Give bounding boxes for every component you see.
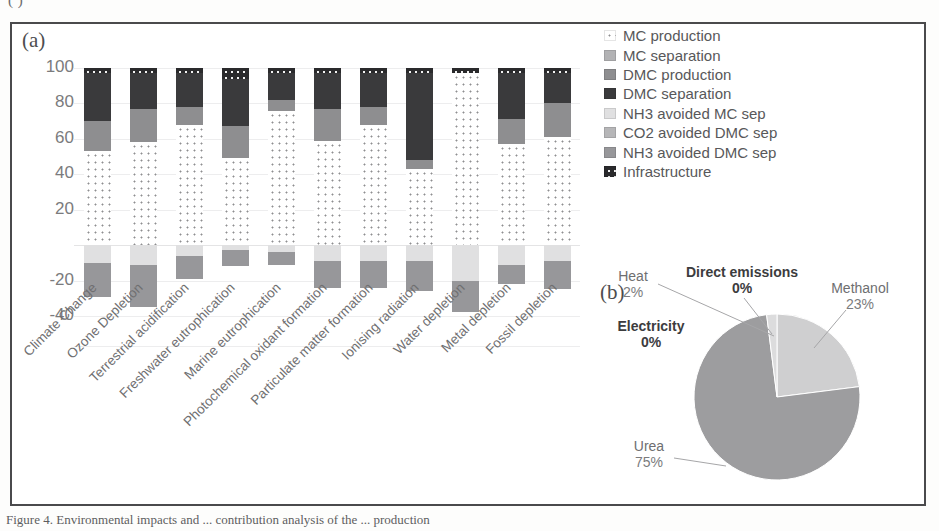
bar-segment [406,160,433,169]
legend-label: NH3 avoided MC sep [623,105,766,122]
bar-column [498,30,525,310]
legend-item: NH3 avoided DMC sep [604,142,834,161]
bar-column [360,30,387,310]
bar-segment [360,73,387,107]
legend-item: DMC separation [604,84,834,103]
bar-segment [268,100,295,111]
pie-label-heat: Heat 2% [602,268,664,300]
bar-segment [544,245,571,261]
pie-svg [694,314,860,480]
pie-label-electricity-percent: 0% [596,334,706,350]
bar-segment [176,68,203,73]
bar-segment [130,142,157,245]
bar-segment [222,250,249,266]
bar-segment [360,68,387,73]
legend-label: DMC production [623,66,731,83]
chart-legend: MC productionMC separationDMC production… [604,26,834,181]
bar-column [268,30,295,310]
bar-segment [360,125,387,245]
pie-label-direct-emissions: Direct emissions 0% [672,264,812,296]
legend-item: CO2 avoided DMC sep [604,123,834,142]
y-tick-label: 100 [28,57,74,77]
y-tick-label: 80 [28,92,74,112]
bar-segment [360,107,387,125]
legend-item: DMC production [604,65,834,84]
pie-chart-panel: Heat 2% Direct emissions 0% Methanol 23%… [596,262,926,502]
legend-swatch-icon [604,127,616,138]
legend-label: MC production [623,27,721,44]
legend-swatch-icon [604,30,616,41]
bar-segment [314,245,341,261]
legend-item: MC separation [604,45,834,64]
pie-label-urea: Urea 75% [614,438,684,470]
bar-segment [84,68,111,73]
clipped-header-text: ( ) [0,0,939,12]
bar-segment [452,73,479,245]
y-axis-tick-labels: 10080604020-20-40 [12,30,74,310]
pie-label-methanol-percent: 23% [810,296,910,312]
bar-segment [268,245,295,252]
bar-plot-area [74,30,580,310]
pie-label-methanol-name: Methanol [810,280,910,296]
bar-segment [452,68,479,73]
bar-segment [360,245,387,261]
bar-segment [268,252,295,264]
bar-column [84,30,111,310]
legend-swatch-icon [604,50,616,61]
pie-label-heat-name: Heat [602,268,664,284]
bar-segment [544,103,571,137]
bar-segment [176,107,203,125]
legend-label: Infrastructure [623,163,711,180]
pie-label-urea-name: Urea [614,438,684,454]
bar-segment [84,151,111,245]
legend-swatch-icon [604,69,616,80]
pie-slice [777,314,859,397]
clipped-figure-caption: Figure 4. Environmental impacts and ... … [0,512,939,531]
pie-label-electricity-name: Electricity [596,318,706,334]
pie-label-direct-emissions-percent: 0% [672,280,812,296]
pie-label-urea-percent: 75% [614,454,684,470]
bar-segment [544,73,571,103]
legend-label: DMC separation [623,85,731,102]
y-tick-label: -20 [28,270,74,290]
bar-segment [176,73,203,107]
legend-label: CO2 avoided DMC sep [623,124,777,141]
bar-segment [406,68,433,73]
bar-segment [406,245,433,261]
bar-segment [268,73,295,100]
bar-segment [222,79,249,127]
bar-segment [84,121,111,151]
legend-swatch-icon [604,147,616,158]
stacked-bar-chart: 10080604020-20-40 Climate ChangeOzone De… [12,30,592,330]
bar-segment [130,68,157,73]
pie-label-methanol: Methanol 23% [810,280,910,312]
bar-segment [84,73,111,121]
bar-column [544,30,571,310]
bar-segment [222,158,249,245]
bar-segment [314,141,341,246]
bar-segment [268,111,295,246]
bar-column [452,30,479,310]
y-tick-label: 60 [28,128,74,148]
bar-column [314,30,341,310]
bar-column [222,30,249,310]
bar-segment [268,68,295,73]
bar-column [406,30,433,310]
bar-segment [498,68,525,73]
legend-item: NH3 avoided MC sep [604,104,834,123]
bar-segment [498,119,525,144]
bar-segment [544,68,571,73]
y-tick-label: 20 [28,199,74,219]
legend-label: NH3 avoided DMC sep [623,144,776,161]
bar-segment [544,137,571,245]
legend-swatch-icon [604,166,616,177]
bar-segment [314,68,341,73]
bar-segment [314,73,341,108]
bar-segment [406,73,433,160]
legend-swatch-icon [604,108,616,119]
pie-label-heat-percent: 2% [602,284,664,300]
bar-segment [222,68,249,79]
bar-segment [314,109,341,141]
bar-column [130,30,157,310]
bar-segment [498,73,525,119]
